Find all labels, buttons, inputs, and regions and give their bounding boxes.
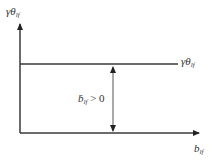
- y-axis-label-sub: lf: [16, 11, 20, 19]
- gap-label-suffix: > 0: [87, 92, 104, 104]
- level-line-label-base: γθ: [181, 55, 191, 67]
- x-axis-label: blf: [194, 143, 203, 156]
- level-line-label: γθlf: [181, 56, 195, 69]
- diagram-canvas: [0, 0, 216, 160]
- y-axis-label-base: γθ: [6, 5, 16, 17]
- y-axis-label: γθlf: [6, 6, 20, 19]
- gap-label: ḃlf > 0: [78, 93, 105, 106]
- level-line-label-sub: lf: [191, 61, 195, 69]
- x-axis-label-sub: lf: [200, 148, 204, 156]
